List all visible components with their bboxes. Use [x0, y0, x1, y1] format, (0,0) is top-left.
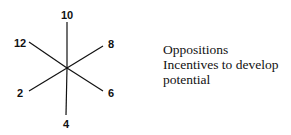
spoke-label-2: 2 [17, 87, 23, 99]
legend-line-potential: potential [163, 72, 278, 87]
spoke-label-4: 4 [63, 118, 70, 130]
six-spoke-diagram: 10864212 [0, 0, 140, 135]
legend-line-incentives: Incentives to develop [163, 57, 278, 72]
spoke-label-8: 8 [108, 38, 114, 50]
spoke-label-12: 12 [14, 37, 26, 49]
spoke-4 [66, 68, 67, 115]
spoke-6 [67, 68, 103, 91]
spoke-8 [67, 46, 103, 68]
spokes [29, 22, 103, 115]
spoke-label-10: 10 [61, 9, 73, 21]
legend-line-oppositions: Oppositions [163, 42, 278, 57]
spoke-label-6: 6 [108, 87, 114, 99]
legend-text: Oppositions Incentives to develop potent… [163, 42, 278, 87]
spoke-2 [29, 68, 67, 91]
spoke-12 [29, 42, 67, 68]
